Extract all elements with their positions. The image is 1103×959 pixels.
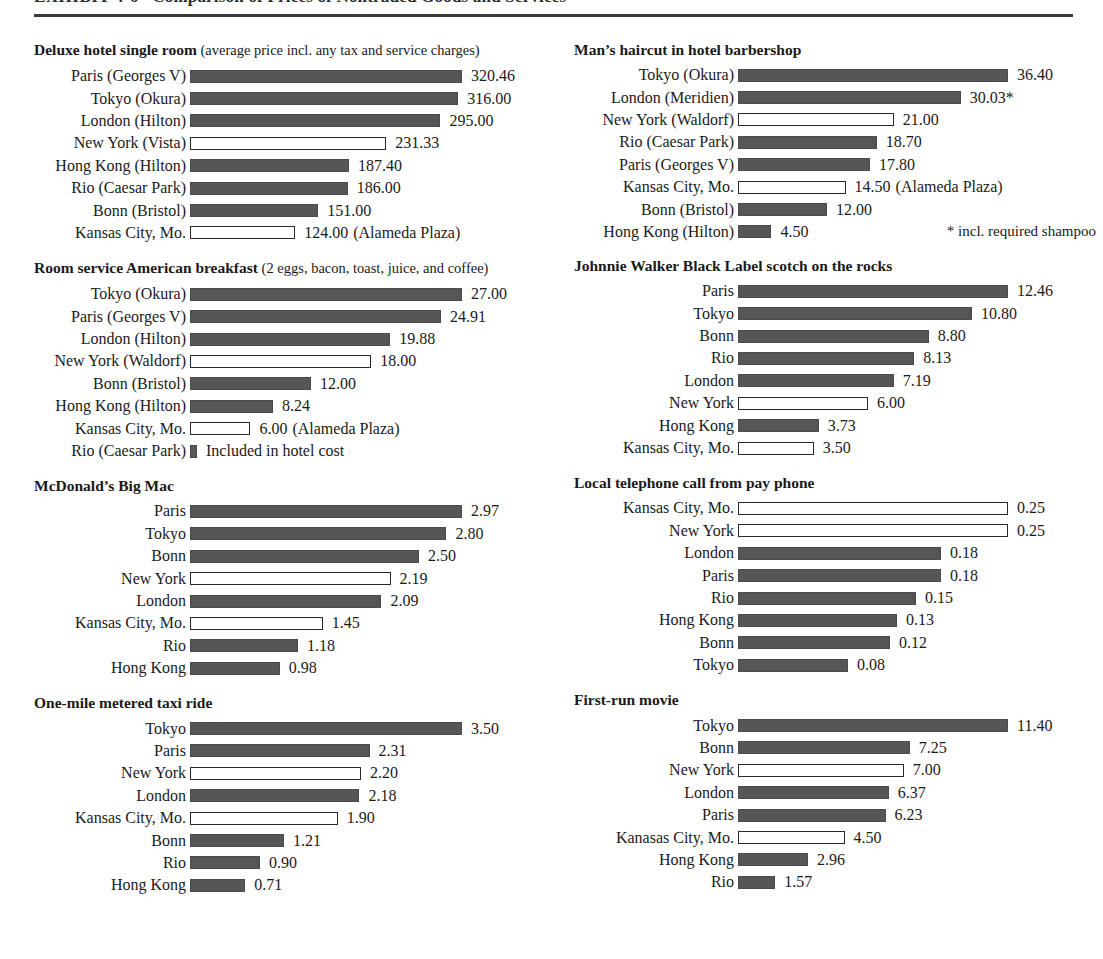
bar-track: 0.12	[738, 632, 1102, 654]
chart-row: New York (Waldorf)18.00	[26, 350, 562, 372]
bar-value-label: 12.00	[827, 201, 872, 219]
bar-category-label: Paris	[566, 282, 738, 300]
bar-value-label: 6.00	[868, 394, 905, 412]
bar-track: 1.45	[190, 612, 562, 634]
bar-track: 0.71	[190, 874, 562, 896]
bar-track: 2.96	[738, 849, 1102, 871]
bar-value-label: 27.00	[462, 285, 507, 303]
bar	[738, 69, 1008, 82]
exhibit-body: Deluxe hotel single room (average price …	[0, 40, 1103, 955]
chart-row: Kansas City, Mo.1.45	[26, 612, 562, 634]
chart-row: New York7.00	[566, 759, 1102, 781]
bar	[190, 572, 391, 585]
chart-row: Bonn (Bristol)12.00	[26, 373, 562, 395]
bar-value-label: 1.45	[323, 614, 360, 632]
bar	[190, 527, 446, 540]
bar	[190, 744, 370, 757]
bar-value-label: 7.25	[910, 739, 947, 757]
chart-panel-mans-haircut-in-hotel-barbershop: Man’s haircut in hotel barbershopTokyo (…	[566, 40, 1102, 242]
chart-title-main: Deluxe hotel single room	[34, 41, 197, 58]
bar-value-label: 8.80	[929, 327, 966, 345]
bar	[190, 70, 462, 83]
bar	[190, 333, 390, 346]
chart-row: Paris (Georges V)24.91	[26, 306, 562, 328]
chart-row: Rio1.18	[26, 635, 562, 657]
bar-category-label: Hong Kong	[566, 417, 738, 435]
bar	[738, 636, 890, 649]
bar	[738, 569, 941, 582]
bar	[738, 502, 1008, 515]
chart-row: New York (Vista)231.33	[26, 132, 562, 154]
chart-row: Kansas City, Mo.124.00(Alameda Plaza)	[26, 222, 562, 244]
bar-track: 7.00	[738, 759, 1102, 781]
bar-value-label: 4.50	[845, 829, 882, 847]
bar	[190, 856, 260, 869]
bar-track: 0.25	[738, 520, 1102, 542]
bar	[190, 159, 349, 172]
bar-value-label: 36.40	[1008, 66, 1053, 84]
bar-track: 316.00	[190, 87, 562, 109]
bar-track: 8.13	[738, 347, 1102, 369]
bar-track: 3.50	[190, 717, 562, 739]
bar-track: 24.91	[190, 306, 562, 328]
chart-row: Hong Kong0.13	[566, 609, 1102, 631]
bar	[190, 767, 361, 780]
chart-title-johnnie-walker-black-label-scotch: Johnnie Walker Black Label scotch on the…	[574, 256, 1102, 275]
bar-value-label: 0.18	[941, 567, 978, 585]
bar-track: 10.80	[738, 303, 1102, 325]
bar-category-label: Tokyo (Okura)	[26, 285, 190, 303]
chart-row: London2.18	[26, 785, 562, 807]
bar	[738, 809, 886, 822]
bar-category-label: Kansas City, Mo.	[26, 224, 190, 242]
bar-category-label: Bonn	[566, 327, 738, 345]
bar-category-label: New York	[566, 761, 738, 779]
bar-value-label: 21.00	[894, 111, 939, 129]
bar-category-label: Hong Kong	[566, 851, 738, 869]
bar-track: 4.50	[738, 221, 1102, 243]
bar-value-label: 1.90	[338, 809, 375, 827]
bar-track: 1.18	[190, 635, 562, 657]
chart-row: Paris2.97	[26, 500, 562, 522]
bar-value-label: 30.03*	[961, 89, 1014, 107]
bar-value-label: 1.18	[298, 637, 335, 655]
bar-category-label: Rio (Caesar Park)	[26, 442, 190, 460]
bar	[190, 226, 295, 239]
chart-title-main: First-run movie	[574, 691, 679, 708]
chart-row: Rio0.15	[566, 587, 1102, 609]
bar-value-label: 12.46	[1008, 282, 1053, 300]
bar-category-label: Rio (Caesar Park)	[566, 133, 738, 151]
bar-category-label: Tokyo	[26, 525, 190, 543]
bar-category-label: Kansas City, Mo.	[26, 614, 190, 632]
bar-category-label: Kanasas City, Mo.	[566, 829, 738, 847]
bar-track: 151.00	[190, 199, 562, 221]
chart-panel-johnnie-walker-black-label-scotch: Johnnie Walker Black Label scotch on the…	[566, 256, 1102, 459]
bar	[190, 812, 338, 825]
bar	[738, 659, 848, 672]
bar-track: 2.09	[190, 590, 562, 612]
chart-row: Paris2.31	[26, 740, 562, 762]
bar-value-label: 151.00	[318, 202, 371, 220]
bar-category-label: New York (Vista)	[26, 134, 190, 152]
bar-track: 18.70	[738, 131, 1102, 153]
bar-category-label: Rio	[566, 349, 738, 367]
bar	[738, 307, 972, 320]
bar-category-label: New York (Waldorf)	[26, 352, 190, 370]
bar	[190, 445, 197, 458]
bar-track: 19.88	[190, 328, 562, 350]
bar-track: 8.80	[738, 325, 1102, 347]
chart-panel-first-run-movie: First-run movieTokyo11.40Bonn7.25New Yor…	[566, 690, 1102, 893]
bar-category-label: New York (Waldorf)	[566, 111, 738, 129]
bar-category-label: Hong Kong	[26, 659, 190, 677]
chart-title-room-service-american-breakfast: Room service American breakfast (2 eggs,…	[34, 258, 562, 278]
bar-track: 0.13	[738, 609, 1102, 631]
bar	[738, 203, 827, 216]
bar-track: 3.73	[738, 414, 1102, 436]
bar-category-label: Rio	[566, 873, 738, 891]
bar-track: 12.00	[738, 198, 1102, 220]
bar-category-label: Bonn	[566, 634, 738, 652]
exhibit-header: EXHIBIT 4-6 Comparison of Prices of Nont…	[34, 0, 1074, 9]
chart-row: Hong Kong (Hilton)4.50	[566, 221, 1102, 243]
bar	[190, 377, 311, 390]
bar	[190, 400, 273, 413]
bar-value-label: 8.24	[273, 397, 310, 415]
